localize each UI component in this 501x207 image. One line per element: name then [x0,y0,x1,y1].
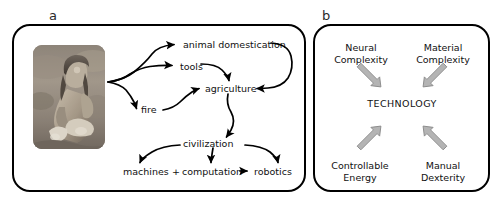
node-tools: tools [180,62,203,72]
node-manual-dexterity-line2: Dexterity [404,172,482,184]
node-machines: machines [123,167,169,177]
node-computation: computation [182,167,242,177]
node-robotics: robotics [254,167,292,177]
early-human-knapping-stone-photo [33,45,105,149]
node-technology: TECHNOLOGY [345,98,459,110]
node-material-complexity-line1: Material [404,42,482,54]
node-material-complexity-line2: Complexity [404,54,482,66]
panel-b-label: b [322,9,330,22]
node-controllable-energy-line2: Energy [320,172,400,184]
node-manual-dexterity-line1: Manual [404,160,482,172]
node-manual-dexterity: Manual Dexterity [404,160,482,183]
node-plus-operator: + [172,167,180,177]
panel-a-label: a [49,9,57,22]
node-fire: fire [141,105,157,115]
node-neural-complexity-line1: Neural [325,42,397,54]
node-agriculture: agriculture [205,84,257,94]
node-neural-complexity-line2: Complexity [325,54,397,66]
node-neural-complexity: Neural Complexity [325,42,397,65]
node-civilization: civilization [183,139,233,149]
figure-root: a [0,0,501,207]
node-controllable-energy-line1: Controllable [320,160,400,172]
node-animal-domestication: animal domestication [183,40,286,50]
node-controllable-energy: Controllable Energy [320,160,400,183]
node-material-complexity: Material Complexity [404,42,482,65]
